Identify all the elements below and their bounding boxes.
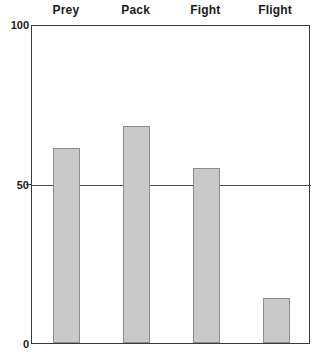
- category-label-flight: Flight: [240, 3, 310, 18]
- bar-flight: [263, 298, 290, 343]
- category-label-pack: Pack: [101, 3, 171, 18]
- bar-pack: [123, 126, 150, 343]
- bar-chart: Prey Pack Fight Flight 100 50 0: [0, 0, 320, 356]
- category-label-fight: Fight: [170, 3, 240, 18]
- y-tick-label-100: 100: [1, 20, 29, 31]
- bar-prey: [53, 148, 80, 343]
- y-tick-label-50: 50: [1, 180, 29, 191]
- plot-area: [31, 25, 310, 344]
- y-axis: 100 50 0: [0, 0, 29, 356]
- bar-fight: [193, 168, 220, 343]
- bars-layer: [32, 26, 309, 343]
- category-label-prey: Prey: [31, 3, 101, 18]
- y-tick-label-0: 0: [1, 339, 29, 350]
